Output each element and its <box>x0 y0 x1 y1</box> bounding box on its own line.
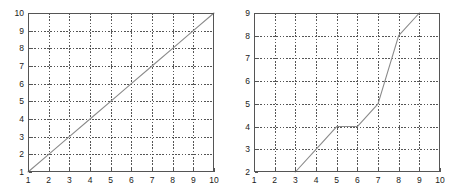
right-chart-ytick-label: 8 <box>245 31 250 41</box>
left-chart-xtick-label: 4 <box>88 175 93 185</box>
right-chart-ytick-label: 5 <box>245 99 250 109</box>
left-chart-xtick-label: 3 <box>67 175 72 185</box>
chart-panel-left: 1234567891012345678910 <box>0 0 226 191</box>
right-chart-ytick-label: 9 <box>245 8 250 18</box>
left-chart-xtick-label: 8 <box>170 175 175 185</box>
right-chart-ytick-label: 4 <box>245 122 250 132</box>
left-chart-ytick-label: 4 <box>19 114 24 124</box>
figure-row: 1234567891012345678910 12345678910234567… <box>0 0 453 191</box>
right-chart-xtick-label: 10 <box>435 175 445 185</box>
right-chart-xtick-label: 4 <box>314 175 319 185</box>
left-chart-ytick-label: 9 <box>19 26 24 36</box>
right-chart-xtick-label: 7 <box>376 175 381 185</box>
left-chart-ytick-label: 2 <box>19 149 24 159</box>
line-chart-right: 1234567891023456789 <box>226 0 452 191</box>
left-chart-ytick-label: 8 <box>19 43 24 53</box>
left-chart-xtick-label: 6 <box>129 175 134 185</box>
left-chart-xtick-label: 5 <box>108 175 113 185</box>
right-chart-xtick-label: 9 <box>417 175 422 185</box>
right-chart-xtick-label: 5 <box>334 175 339 185</box>
left-chart-xtick-label: 9 <box>191 175 196 185</box>
right-chart-xtick-label: 3 <box>293 175 298 185</box>
right-chart-ytick-label: 3 <box>245 144 250 154</box>
left-chart-ytick-label: 6 <box>19 79 24 89</box>
right-chart-ytick-label: 6 <box>245 76 250 86</box>
left-chart-xtick-label: 2 <box>46 175 51 185</box>
left-chart-ytick-label: 7 <box>19 61 24 71</box>
right-chart-xtick-label: 2 <box>272 175 277 185</box>
left-chart-ytick-label: 10 <box>15 8 25 18</box>
left-chart-xtick-label: 1 <box>26 175 31 185</box>
line-chart-left: 1234567891012345678910 <box>0 0 226 191</box>
right-chart-xtick-label: 6 <box>355 175 360 185</box>
right-chart-ytick-label: 2 <box>245 167 250 177</box>
right-chart-ytick-label: 7 <box>245 53 250 63</box>
left-chart-ytick-label: 1 <box>19 167 24 177</box>
right-chart-xtick-label: 1 <box>252 175 257 185</box>
left-chart-ytick-label: 5 <box>19 96 24 106</box>
right-chart-xtick-label: 8 <box>396 175 401 185</box>
chart-panel-right: 1234567891023456789 <box>226 0 452 191</box>
left-chart-xtick-label: 10 <box>209 175 219 185</box>
left-chart-ytick-label: 3 <box>19 132 24 142</box>
left-chart-xtick-label: 7 <box>150 175 155 185</box>
